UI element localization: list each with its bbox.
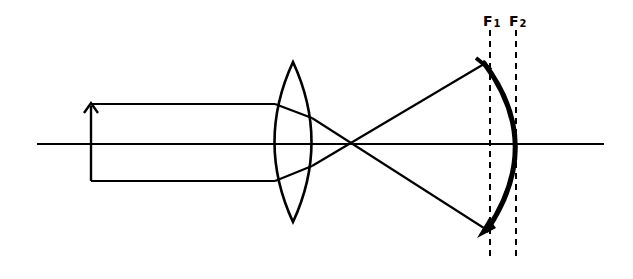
label-f1-sub: 1 (494, 18, 501, 29)
label-f2: F2 (509, 14, 527, 28)
label-f1-main: F (483, 13, 493, 29)
diagram-canvas (0, 0, 633, 279)
label-f2-sub: 2 (520, 18, 527, 29)
ray-lower-to-top (312, 64, 484, 166)
incident-rays (91, 104, 275, 181)
label-f1: F1 (483, 14, 501, 28)
label-f2-main: F (509, 13, 519, 29)
curved-image-surface (484, 63, 515, 230)
ray-upper-to-bottom (312, 118, 487, 230)
converging-lens (275, 62, 312, 222)
object-arrow-icon (84, 103, 98, 181)
